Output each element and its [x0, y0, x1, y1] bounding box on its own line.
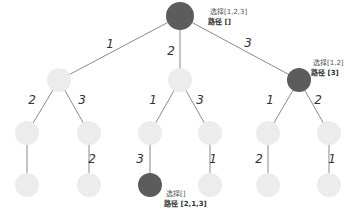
n3-anno: 选择[1,2]路径 [3]: [311, 58, 344, 77]
tree-node-root: [166, 2, 194, 30]
tree-edge: [180, 16, 299, 80]
tree-node-n132: [77, 173, 101, 197]
nodes-layer: [15, 2, 341, 197]
tree-node-n321: [317, 173, 341, 197]
edge-label: 3: [136, 152, 144, 166]
tree-node-n231: [198, 173, 222, 197]
tree-node-n31: [256, 121, 280, 145]
decision-tree-diagram: 12323131223121 选择[1,2,3]路径 []选择[1,2]路径 […: [0, 0, 361, 221]
path-label: 路径 [3]: [311, 68, 339, 77]
tree-node-n12: [15, 121, 39, 145]
tree-node-n32: [317, 121, 341, 145]
choices-label: 选择[1,2,3]: [210, 7, 248, 16]
edge-label: 1: [209, 152, 217, 166]
path-label: 路径 [2,1,3]: [164, 199, 207, 208]
choices-label: 选择[]: [166, 189, 186, 198]
edge-label: 1: [106, 37, 114, 51]
choices-label: 选择[1,2]: [313, 58, 344, 67]
edge-label: 3: [78, 93, 86, 107]
edge-label: 2: [255, 152, 263, 166]
edge-labels-layer: 12323131223121: [28, 36, 336, 166]
edge-label: 3: [196, 93, 204, 107]
tree-node-n2: [168, 68, 192, 92]
edge-label: 2: [28, 93, 36, 107]
edges-layer: [27, 16, 329, 185]
tree-node-n213: [138, 173, 162, 197]
tree-node-n21: [138, 121, 162, 145]
tree-node-n3: [287, 68, 311, 92]
tree-node-n1: [47, 68, 71, 92]
edge-label: 2: [167, 44, 175, 58]
edge-label: 1: [149, 93, 157, 107]
annotations-layer: 选择[1,2,3]路径 []选择[1,2]路径 [3]选择[]路径 [2,1,3…: [164, 7, 344, 208]
edge-label: 3: [244, 36, 252, 50]
tree-edge: [59, 16, 180, 80]
edge-label: 1: [266, 93, 274, 107]
edge-label: 1: [328, 152, 336, 166]
root-anno: 选择[1,2,3]路径 []: [208, 7, 248, 26]
path-label: 路径 []: [208, 17, 231, 26]
tree-node-n13: [77, 121, 101, 145]
edge-label: 2: [314, 93, 322, 107]
tree-node-n23: [198, 121, 222, 145]
edge-label: 2: [88, 152, 96, 166]
tree-node-n312: [256, 173, 280, 197]
tree-node-n123: [15, 173, 39, 197]
